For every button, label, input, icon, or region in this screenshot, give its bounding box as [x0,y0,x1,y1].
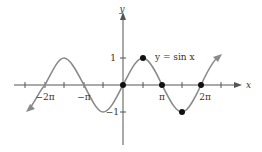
point-pi [159,82,165,88]
point-origin [120,82,126,88]
curve-arrow-left-icon [26,104,35,112]
x-tick-pi: π [159,92,165,102]
y-tick-1: 1 [110,53,116,63]
x-axis-arrow-icon [234,82,242,88]
equation-label: y = sin x [154,52,195,62]
sine-graph: y x y = sin x 1 −1 −2π −π π 2π [0,0,262,152]
x-tick-2pi: 2π [199,92,211,102]
x-tick-negpi: −π [77,92,91,102]
x-tick-neg2pi: −2π [35,92,54,102]
y-axis-label: y [118,4,125,14]
point-max [140,55,146,61]
y-tick-neg1: −1 [106,107,119,117]
point-2pi [198,82,204,88]
x-axis-label: x [246,80,251,90]
point-min [179,109,185,115]
